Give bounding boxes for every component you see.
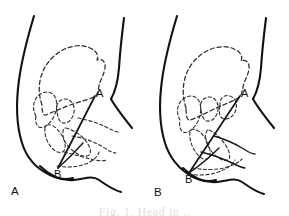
panel-label-a: A (11, 185, 19, 197)
point-label-a-panel-a: A (96, 87, 104, 99)
figure-caption-text: Fig. 1. Head in .. (0, 206, 289, 216)
figure-caption: Fig. 1. Head in .. (0, 205, 289, 216)
point-label-a-panel-b: A (241, 87, 249, 99)
figure-root: A B A (0, 0, 289, 216)
panel-label-b: B (154, 186, 162, 198)
point-label-b-panel-a: B (54, 168, 61, 180)
anatomical-figure: A B A (0, 0, 289, 216)
point-label-b-panel-b: B (185, 173, 192, 185)
